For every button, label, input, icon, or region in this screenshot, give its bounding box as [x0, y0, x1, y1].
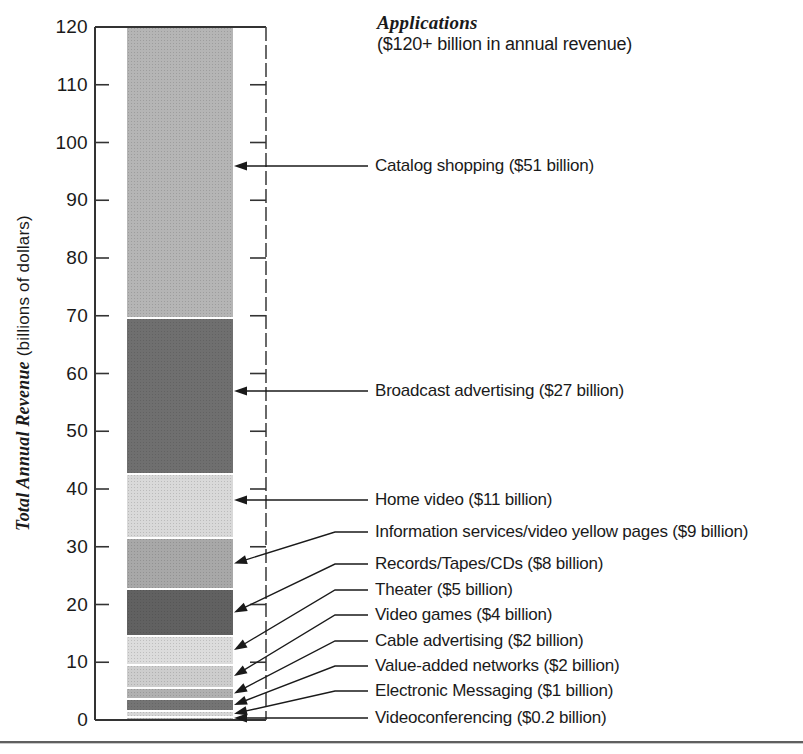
bar-segment-theater: [127, 636, 233, 665]
segment-separator: [127, 635, 233, 637]
arrowhead-theater: [234, 640, 248, 651]
y-tick-label-40: 40: [0, 478, 88, 500]
arrowhead-cable-advertising: [234, 683, 248, 693]
arrowhead-home-video: [234, 495, 247, 504]
segment-separator: [127, 664, 233, 666]
segment-separator: [127, 537, 233, 539]
figure-stacked-bar-chart: Total Annual Revenue (billions of dollar…: [0, 0, 803, 754]
bar-segment-records-tapes-cds: [127, 589, 233, 635]
segment-label-records-tapes-cds: Records/Tapes/CDs ($8 billion): [375, 553, 603, 575]
arrowhead-electronic-messaging: [234, 706, 248, 715]
figure-bottom-rule: [0, 741, 803, 743]
segment-separator: [127, 588, 233, 590]
arrowhead-records-tapes-cds: [234, 603, 248, 613]
y-axis-title-emphasis: Total Annual Revenue: [13, 361, 33, 531]
chart-title: Applications: [377, 12, 632, 33]
segment-label-cable-advertising: Cable advertising ($2 billion): [375, 630, 584, 652]
arrowhead-video-games: [234, 665, 248, 676]
leader-line-value-added-networks: [242, 666, 368, 702]
segment-separator: [127, 710, 233, 712]
leader-line-records-tapes-cds: [242, 564, 368, 609]
segment-separator: [127, 687, 233, 689]
bar-segment-information-services-video-yellow-pages: [127, 538, 233, 590]
arrowhead-catalog-shopping: [234, 161, 247, 170]
leader-line-information-services-video-yellow-pages: [243, 532, 368, 561]
segment-label-broadcast-advertising: Broadcast advertising ($27 billion): [375, 380, 624, 402]
leader-line-theater: [242, 590, 368, 646]
arrowhead-broadcast-advertising: [234, 386, 247, 395]
leader-line-video-games: [242, 615, 368, 671]
segment-label-catalog-shopping: Catalog shopping ($51 billion): [375, 155, 594, 177]
arrowhead-value-added-networks: [234, 696, 248, 705]
bar-segment-home-video: [127, 474, 233, 538]
segment-separator: [127, 716, 233, 718]
y-tick-label-20: 20: [0, 594, 88, 616]
y-tick-label-30: 30: [0, 536, 88, 558]
y-tick-label-50: 50: [0, 420, 88, 442]
y-tick-label-90: 90: [0, 189, 88, 211]
arrowhead-videoconferencing: [234, 713, 247, 722]
bar-segment-video-games: [127, 665, 233, 688]
legend-title-block: Applications ($120+ billion in annual re…: [377, 12, 632, 55]
leader-line-cable-advertising: [242, 641, 368, 689]
segment-separator: [127, 698, 233, 700]
segment-separator: [127, 317, 233, 319]
segment-label-video-games: Video games ($4 billion): [375, 604, 552, 626]
bar-segment-broadcast-advertising: [127, 318, 233, 474]
segment-label-theater: Theater ($5 billion): [375, 579, 513, 601]
leader-line-electronic-messaging: [243, 691, 368, 712]
y-tick-label-120: 120: [0, 16, 88, 38]
y-tick-label-0: 0: [0, 709, 88, 731]
bar-segment-catalog-shopping: [127, 27, 233, 318]
y-tick-label-110: 110: [0, 74, 88, 96]
segment-separator: [127, 473, 233, 475]
arrowhead-information-services-video-yellow-pages: [234, 555, 248, 564]
segment-label-electronic-messaging: Electronic Messaging ($1 billion): [375, 680, 613, 702]
segment-label-home-video: Home video ($11 billion): [375, 489, 552, 511]
y-tick-label-100: 100: [0, 132, 88, 154]
segment-label-value-added-networks: Value-added networks ($2 billion): [375, 655, 619, 677]
y-tick-label-10: 10: [0, 651, 88, 673]
y-axis-title-units: (billions of dollars): [14, 215, 33, 361]
y-tick-label-80: 80: [0, 247, 88, 269]
chart-subtitle: ($120+ billion in annual revenue): [377, 34, 632, 55]
y-tick-label-70: 70: [0, 305, 88, 327]
segment-label-videoconferencing: Videoconferencing ($0.2 billion): [375, 707, 606, 729]
segment-label-information-services-video-yellow-pages: Information services/video yellow pages …: [375, 521, 748, 543]
y-tick-label-60: 60: [0, 363, 88, 385]
